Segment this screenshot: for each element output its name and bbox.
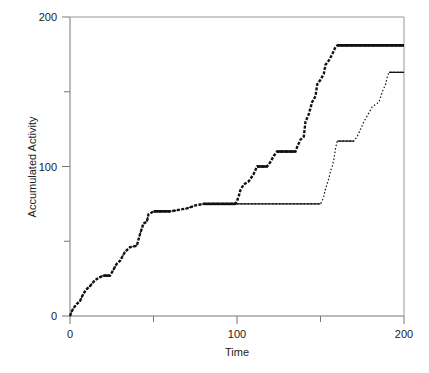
y-tick-label: 200: [39, 11, 57, 23]
series-2-line: [70, 72, 404, 316]
y-axis-label: Accumulated Activity: [26, 116, 38, 217]
x-axis-label: Time: [225, 346, 249, 358]
series-layer: [70, 45, 404, 316]
chart: 01002000100200 Time Accumulated Activity: [0, 0, 429, 373]
series-2: [70, 72, 404, 316]
x-tick-label: 100: [228, 328, 246, 340]
series-1: [70, 45, 404, 316]
x-tick-label: 0: [67, 328, 73, 340]
axis-ticks: 01002000100200: [39, 11, 414, 340]
plot-frame: [70, 17, 404, 316]
x-tick-label: 200: [395, 328, 413, 340]
series-1-line: [70, 45, 404, 316]
y-tick-label: 100: [39, 161, 57, 173]
y-tick-label: 0: [51, 310, 57, 322]
